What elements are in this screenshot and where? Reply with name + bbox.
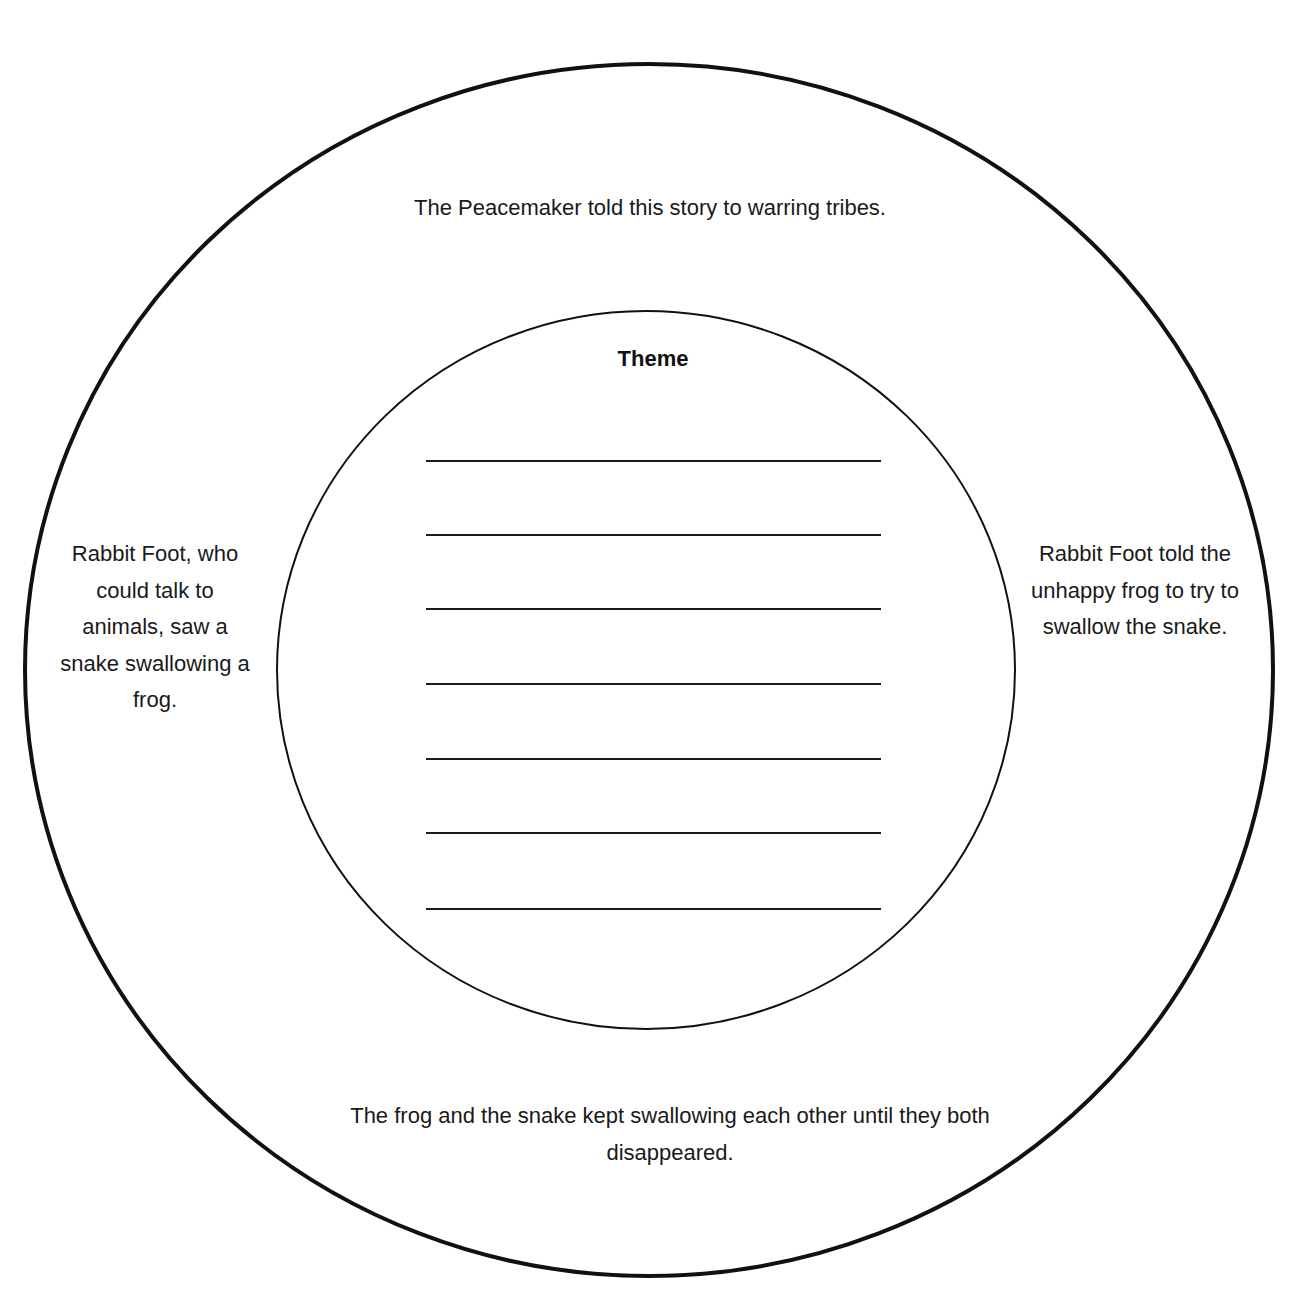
theme-answer-line-2[interactable] (426, 534, 881, 536)
outer-left-text: Rabbit Foot, who could talk to animals, … (55, 536, 255, 719)
theme-answer-line-3[interactable] (426, 608, 881, 610)
theme-answer-line-6[interactable] (426, 832, 881, 834)
outer-bottom-text: The frog and the snake kept swallowing e… (340, 1098, 1000, 1171)
theme-title: Theme (553, 346, 753, 372)
theme-answer-line-4[interactable] (426, 683, 881, 685)
outer-top-text: The Peacemaker told this story to warrin… (300, 190, 1000, 227)
outer-right-text: Rabbit Foot told the unhappy frog to try… (1020, 536, 1250, 646)
theme-answer-line-1[interactable] (426, 460, 881, 462)
theme-answer-line-7[interactable] (426, 908, 881, 910)
theme-answer-line-5[interactable] (426, 758, 881, 760)
inner-circle (277, 311, 1015, 1029)
